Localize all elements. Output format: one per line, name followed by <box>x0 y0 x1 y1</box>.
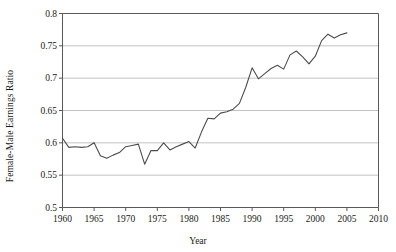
y-tick-label: 0.6 <box>23 138 57 148</box>
tick-marks-group <box>59 14 379 212</box>
gridlines-group <box>63 46 379 175</box>
x-tick-label: 2010 <box>359 214 396 224</box>
y-tick-label: 0.7 <box>23 73 57 83</box>
data-series-line <box>63 33 347 164</box>
y-tick-label: 0.55 <box>23 170 57 180</box>
y-tick-label: 0.65 <box>23 106 57 116</box>
y-tick-label: 0.75 <box>23 41 57 51</box>
y-tick-label: 0.8 <box>23 9 57 19</box>
chart-container: Female-Male Earnings Ratio Year 0.50.550… <box>0 0 396 252</box>
y-tick-label: 0.5 <box>23 203 57 213</box>
